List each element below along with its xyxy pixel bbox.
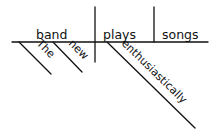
object-word: songs [162, 27, 199, 42]
sentence-diagram: band plays songs The new enthusiasticall… [0, 0, 217, 140]
modifier-line-enthusiastically [107, 42, 195, 128]
modifier-word-enthusiastically: enthusiastically [119, 37, 190, 107]
